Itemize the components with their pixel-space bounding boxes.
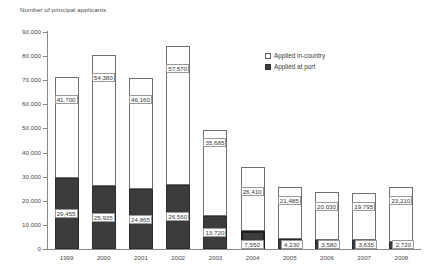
data-label-applied-in-country: 57,570 xyxy=(166,64,189,73)
y-axis-tick-label: 0 xyxy=(1,245,41,252)
data-label-applied-at-port: 25,935 xyxy=(92,213,115,222)
legend-item-applied-at-port: Applied at port xyxy=(265,61,325,72)
y-axis-tick-label: 10,000 xyxy=(1,221,41,228)
data-label-applied-at-port: 7,550 xyxy=(241,240,264,249)
bar-segment-applied-in-country xyxy=(278,187,302,239)
y-axis-tick-labels: 010,00020,00030,00040,00050,00060,00070,… xyxy=(0,0,41,275)
data-label-applied-at-port: 2,720 xyxy=(392,240,414,249)
x-axis-tick-label: 1999 xyxy=(48,254,85,261)
data-label-applied-at-port: 4,230 xyxy=(281,240,303,249)
x-axis-line xyxy=(47,249,421,250)
data-label-applied-in-country: 41,700 xyxy=(55,95,78,104)
filled-square-icon xyxy=(265,64,271,70)
data-label-applied-in-country: 19,795 xyxy=(352,202,375,211)
bar-2004 xyxy=(241,167,265,249)
legend-label: Applied in-country xyxy=(274,52,325,59)
data-label-applied-in-country: 46,160 xyxy=(129,95,152,104)
y-axis-tick-label: 20,000 xyxy=(1,197,41,204)
bar-segment-applied-in-country xyxy=(315,192,339,240)
data-label-applied-at-port: 13,720 xyxy=(203,228,226,237)
x-axis-tick-label: 2005 xyxy=(271,254,308,261)
x-axis-tick-label: 2001 xyxy=(122,254,159,261)
data-label-applied-at-port: 26,560 xyxy=(166,212,189,221)
bar-segment-applied-in-country xyxy=(389,187,413,243)
x-axis-tick-label: 2003 xyxy=(197,254,234,261)
data-label-applied-in-country: 21,485 xyxy=(278,196,301,205)
y-axis-tick-label: 30,000 xyxy=(1,173,41,180)
x-axis-tick-label: 2007 xyxy=(346,254,383,261)
data-label-applied-in-country: 35,685 xyxy=(203,138,226,147)
y-axis-tick-label: 50,000 xyxy=(1,124,41,131)
data-label-applied-at-port: 3,580 xyxy=(318,240,340,249)
data-label-applied-at-port: 3,635 xyxy=(355,240,377,249)
legend-item-applied-in-country: Applied in-country xyxy=(265,50,325,61)
x-axis-tick-label: 2008 xyxy=(383,254,420,261)
x-axis-tick-label: 2004 xyxy=(234,254,271,261)
bar-segment-applied-in-country xyxy=(55,77,79,178)
y-axis-tick-label: 60,000 xyxy=(1,100,41,107)
y-axis-tick-label: 90,000 xyxy=(1,28,41,35)
data-label-applied-at-port: 24,865 xyxy=(129,215,152,224)
bar-segment-applied-in-country xyxy=(352,193,376,241)
plot-area: 41,70029,45554,38025,93546,16024,86557,5… xyxy=(48,32,420,249)
data-label-applied-in-country: 26,410 xyxy=(241,187,264,196)
open-square-icon xyxy=(265,53,271,59)
bar-segment-applied-in-country xyxy=(241,167,265,231)
y-axis-tick-label: 70,000 xyxy=(1,76,41,83)
y-axis-tick-label: 80,000 xyxy=(1,52,41,59)
x-axis-tick-label: 2006 xyxy=(308,254,345,261)
stacked-bar-chart: Number of principal applicants 010,00020… xyxy=(0,0,432,275)
data-label-applied-in-country: 20,030 xyxy=(315,202,338,211)
x-axis-tick-label: 2000 xyxy=(85,254,122,261)
chart-legend: Applied in-country Applied at port xyxy=(265,50,325,72)
data-label-applied-in-country: 23,210 xyxy=(389,196,412,205)
data-label-applied-in-country: 54,380 xyxy=(92,73,115,82)
y-axis-tick-label: 40,000 xyxy=(1,149,41,156)
legend-label: Applied at port xyxy=(274,63,315,70)
x-axis-tick-label: 2002 xyxy=(160,254,197,261)
data-label-applied-at-port: 29,455 xyxy=(55,209,78,218)
